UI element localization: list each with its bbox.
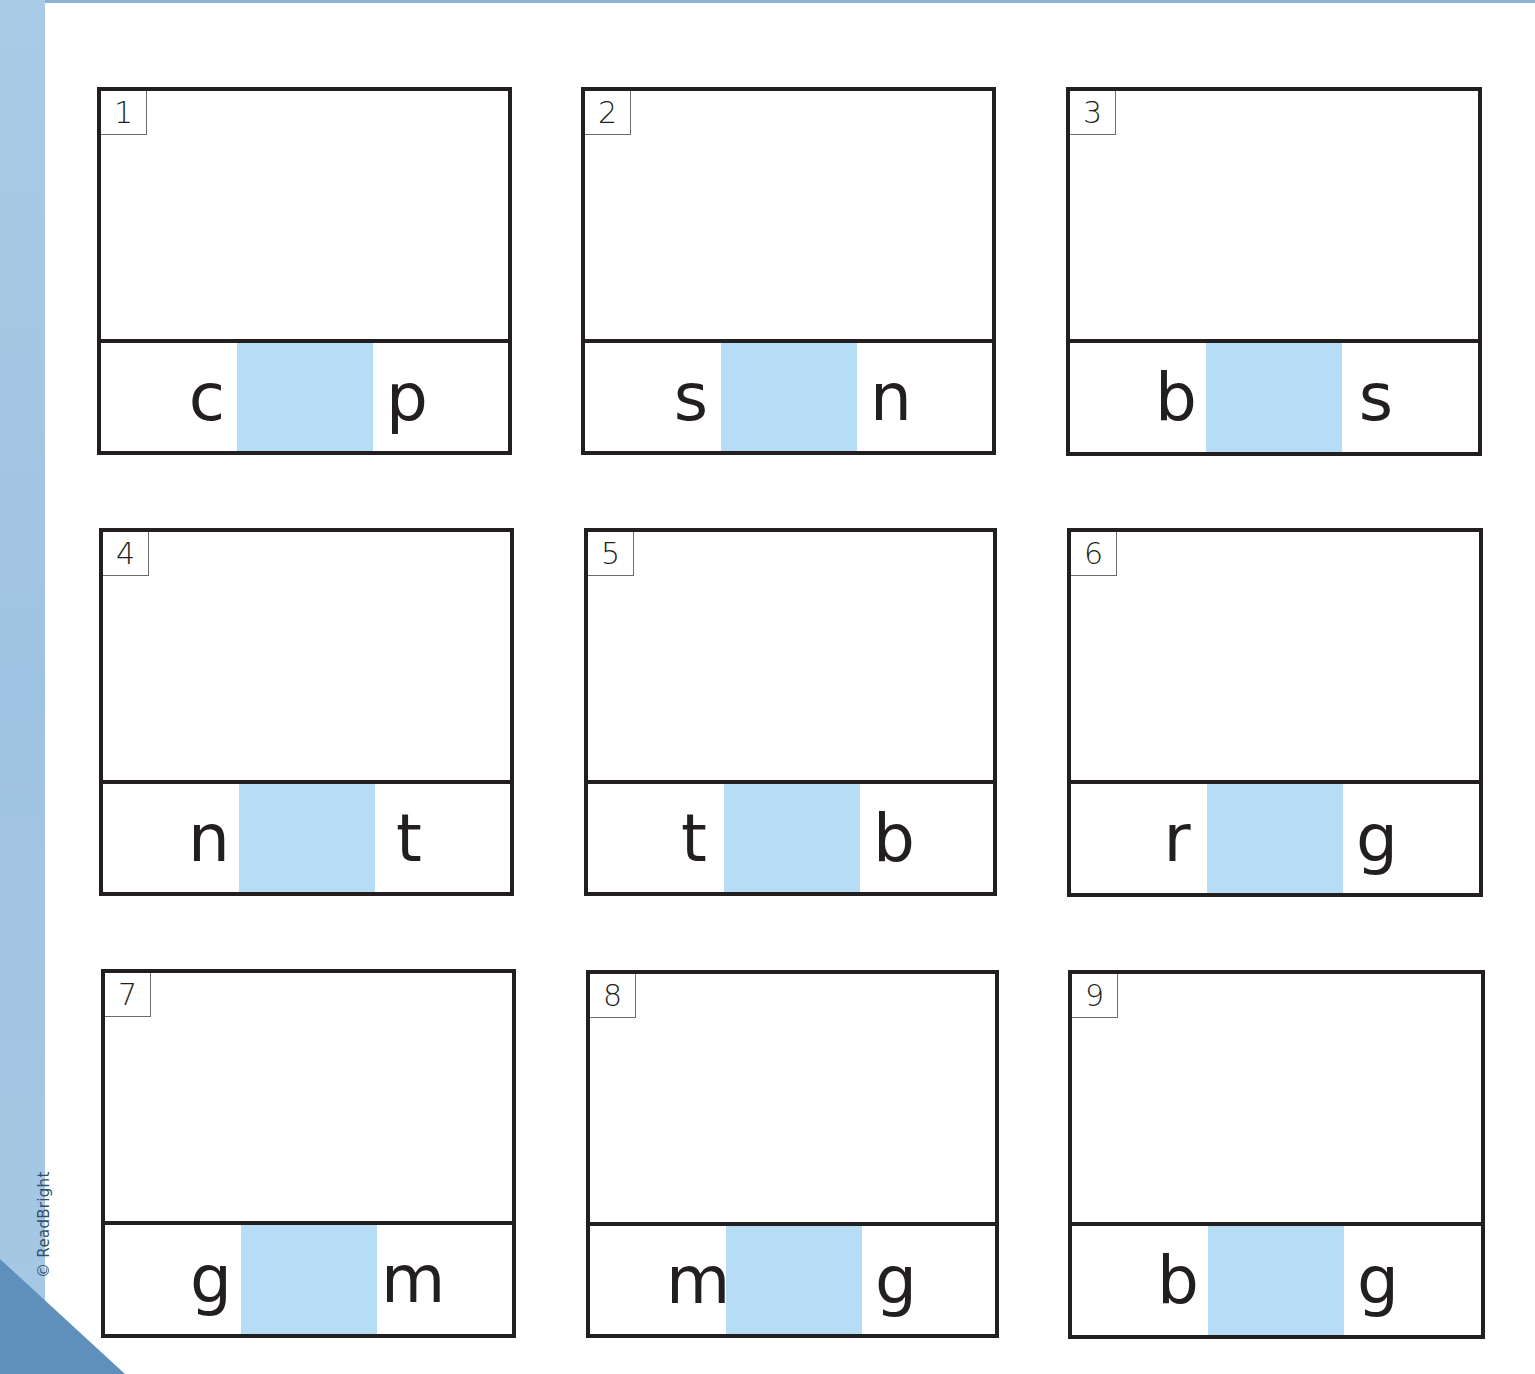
missing-letter-blank[interactable]	[241, 1225, 377, 1334]
card-number: 6	[1071, 532, 1117, 576]
word-row: c p	[101, 343, 508, 451]
first-letter: s	[661, 353, 721, 443]
last-letter: b	[864, 794, 924, 884]
first-letter: r	[1147, 794, 1207, 884]
word-card-5: 5 t b	[584, 528, 997, 896]
word-row: g m	[105, 1225, 512, 1334]
last-letter: s	[1346, 353, 1406, 443]
card-number: 7	[105, 973, 151, 1017]
first-letter: b	[1148, 1236, 1208, 1326]
card-number: 4	[103, 532, 149, 576]
card-number: 2	[585, 91, 631, 135]
word-card-7: 7 g m	[101, 969, 516, 1338]
missing-letter-blank[interactable]	[239, 784, 375, 892]
picture-area	[590, 974, 995, 1226]
word-card-3: 3 b s	[1066, 87, 1482, 456]
picture-area	[1072, 974, 1481, 1226]
side-color-band	[0, 0, 45, 1374]
missing-letter-blank[interactable]	[721, 343, 857, 451]
picture-area	[1070, 91, 1478, 343]
word-card-8: 8 m g	[586, 970, 999, 1338]
first-letter: t	[664, 794, 724, 884]
picture-area	[585, 91, 992, 343]
word-row: m g	[590, 1226, 995, 1334]
first-letter: n	[179, 794, 239, 884]
card-number: 5	[588, 532, 634, 576]
card-number: 9	[1072, 974, 1118, 1018]
first-letter: b	[1146, 353, 1206, 443]
word-row: t b	[588, 784, 993, 892]
top-edge-strip	[0, 0, 1535, 3]
word-card-6: 6 r g	[1067, 528, 1483, 897]
last-letter: g	[1347, 794, 1407, 884]
last-letter: g	[1348, 1236, 1408, 1326]
word-row: b g	[1072, 1226, 1481, 1335]
picture-area	[588, 532, 993, 784]
last-letter: p	[377, 353, 437, 443]
card-number: 3	[1070, 91, 1116, 135]
picture-area	[1071, 532, 1479, 784]
card-number: 8	[590, 974, 636, 1018]
missing-letter-blank[interactable]	[726, 1226, 862, 1334]
first-letter: c	[177, 353, 237, 443]
missing-letter-blank[interactable]	[1208, 1226, 1344, 1335]
missing-letter-blank[interactable]	[1206, 343, 1342, 452]
word-row: s n	[585, 343, 992, 451]
missing-letter-blank[interactable]	[237, 343, 373, 451]
picture-area	[105, 973, 512, 1225]
word-row: b s	[1070, 343, 1478, 452]
word-card-4: 4 n t	[99, 528, 514, 896]
copyright-notice: © ReadBright	[35, 1171, 53, 1278]
picture-area	[101, 91, 508, 343]
missing-letter-blank[interactable]	[724, 784, 860, 892]
last-letter: n	[861, 353, 921, 443]
first-letter: g	[181, 1235, 241, 1325]
word-row: r g	[1071, 784, 1479, 893]
word-card-2: 2 s n	[581, 87, 996, 455]
word-card-9: 9 b g	[1068, 970, 1485, 1339]
picture-area	[103, 532, 510, 784]
card-number: 1	[101, 91, 147, 135]
word-row: n t	[103, 784, 510, 892]
word-card-1: 1 c p	[97, 87, 512, 455]
first-letter: m	[666, 1236, 726, 1326]
last-letter: m	[381, 1235, 441, 1325]
last-letter: t	[379, 794, 439, 884]
missing-letter-blank[interactable]	[1207, 784, 1343, 893]
last-letter: g	[866, 1236, 926, 1326]
